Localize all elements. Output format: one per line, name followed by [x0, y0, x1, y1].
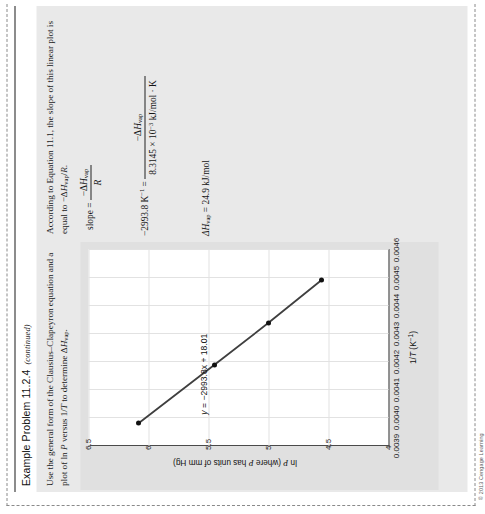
example-title-bar: Example Problem 11.2.4(continued): [14, 6, 38, 492]
series-line: [138, 280, 320, 423]
example-title: Example Problem 11.2.4(continued): [19, 324, 31, 486]
copyright-notice: © 2013 Cengage Learning: [477, 433, 483, 500]
eq2-equals: =: [139, 181, 149, 186]
equation-slope-definition: slope = −ΔHvap R: [78, 20, 102, 230]
y-axis-title-e: has units of mm Hg): [173, 458, 249, 467]
eq2-num-minus: −Δ: [132, 130, 142, 141]
eq3-sub: vap: [204, 214, 211, 223]
x-axis-title-sup: −1: [406, 334, 413, 342]
eq1-num-sub: vap: [82, 169, 89, 178]
eq1-lhs: slope =: [84, 203, 94, 230]
trendline-equation-label: y = −2993.8x + 18.01: [198, 334, 208, 415]
problem-italic-h: H: [58, 341, 68, 348]
eq1-denominator: R: [90, 165, 102, 200]
problem-sub-vap: vap: [61, 331, 68, 340]
solution-intro-h: H: [58, 185, 68, 192]
solution-intro-sub: vap: [61, 175, 68, 184]
data-point: [266, 320, 271, 325]
eq2-den-b: kJ/mol · K: [147, 80, 157, 122]
series-polyline: [80, 242, 438, 490]
data-point: [318, 278, 323, 283]
eq2-num-h: H: [132, 123, 142, 130]
eq3-rest: = 24.9 kJ/mol: [200, 160, 210, 214]
data-point: [212, 362, 217, 367]
eq1-num-minus: −Δ: [78, 185, 88, 196]
equation-result: ΔHvap = 24.9 kJ/mol: [200, 26, 211, 236]
equation-substitution: −2993.8 K−1 = −ΔHvap 8.3145 × 10−3 kJ/mo…: [132, 26, 157, 236]
solution-intro-c: .: [58, 165, 68, 167]
problem-italic-p: P: [58, 444, 68, 450]
eq2-lhs-exponent: −1: [137, 189, 144, 196]
x-axis-title-pre: 1/: [408, 357, 418, 364]
right-column: According to Equation 11.1, the slope of…: [36, 6, 467, 240]
solution-intro-a: According to Equation 11.1, the slope of…: [44, 21, 68, 234]
solution-intro-r: R: [58, 167, 68, 173]
example-body: Use the general form of the Clausius–Cla…: [36, 6, 467, 492]
eq2-denominator: 8.3145 × 10−3 kJ/mol · K: [144, 76, 158, 179]
x-axis-title-close: ): [408, 331, 418, 334]
y-axis-title: ln P (where P has units of mm Hg): [110, 458, 360, 467]
eq2-den-exp: −3: [146, 123, 153, 130]
x-axis-title-post: (K: [408, 341, 418, 352]
eq1-fraction: −ΔHvap R: [78, 165, 102, 200]
screenshot-canvas: © 2013 Cengage Learning Example Problem …: [0, 0, 485, 514]
data-point: [136, 421, 141, 426]
eq3-h: ΔH: [200, 224, 210, 236]
problem-text-2: versus 1/: [58, 409, 68, 444]
x-axis-title-italic: T: [408, 352, 418, 357]
left-column: Use the general form of the Clausius–Cla…: [36, 240, 467, 492]
example-problem-box: Example Problem 11.2.4(continued) Use th…: [14, 6, 467, 492]
y-axis-title-c: (where: [253, 458, 283, 467]
eq2-fraction: −ΔHvap 8.3145 × 10−3 kJ/mol · K: [132, 76, 157, 179]
y-axis-title-b: P: [283, 458, 288, 467]
eq1-num-h: H: [78, 178, 88, 185]
example-title-note: (continued): [21, 324, 31, 364]
eq2-numerator: −ΔHvap: [132, 76, 144, 179]
solution-intro: According to Equation 11.1, the slope of…: [43, 20, 72, 234]
eq2-den-a: 8.3145 × 10: [147, 130, 157, 175]
solution-intro-b: /: [58, 173, 68, 176]
example-title-text: Example Problem 11.2.4: [19, 370, 31, 486]
problem-statement: Use the general form of the Clausius–Cla…: [43, 250, 72, 486]
problem-text-3: to determine Δ: [58, 347, 68, 404]
scanned-page: © 2013 Cengage Learning Example Problem …: [0, 0, 485, 514]
eq2-num-sub: vap: [136, 114, 143, 123]
eq1-numerator: −ΔHvap: [78, 165, 90, 200]
trendline-eq-rest: = −2993.8x + 18.01: [198, 334, 208, 411]
problem-text-4: .: [58, 329, 68, 331]
problem-italic-t: T: [58, 404, 68, 409]
clausius-clapeyron-chart: 44.555.566.5 0.00390.00400.00410.00420.0…: [80, 242, 438, 490]
eq2-lhs-value: −2993.8 K: [139, 196, 149, 236]
trendline-eq-y: y: [198, 410, 208, 414]
y-axis-title-a: ln: [288, 458, 297, 467]
x-axis-title: 1/T (K−1): [406, 249, 418, 446]
